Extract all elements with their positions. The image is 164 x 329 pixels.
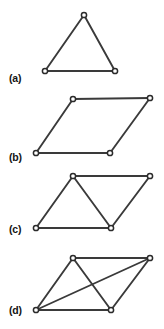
graph-node: [42, 68, 47, 73]
graph-edge: [111, 176, 150, 228]
graph-edge: [36, 99, 73, 153]
panel-label: (d): [9, 304, 22, 316]
graph-node: [33, 150, 38, 155]
edges-group: [36, 176, 150, 228]
graph-edge: [73, 98, 150, 99]
graph-edge: [111, 258, 150, 310]
edges-group: [36, 98, 150, 153]
graph-node: [147, 95, 152, 100]
graph-panel-a: (a): [9, 12, 118, 84]
graph-panel-d: (d): [9, 255, 153, 316]
panel-label: (b): [9, 151, 22, 163]
panels-layer: (a)(b)(c)(d): [9, 12, 153, 316]
graph-figure-canvas: (a)(b)(c)(d): [0, 0, 164, 329]
graph-panel-c: (c): [9, 173, 153, 235]
graph-edge: [73, 176, 111, 228]
edges-group: [45, 15, 115, 71]
graph-node: [70, 255, 75, 260]
graph-node: [147, 173, 152, 178]
graph-node: [33, 307, 38, 312]
graph-node: [81, 12, 86, 17]
figure-container: (a)(b)(c)(d): [0, 0, 164, 329]
graph-edge: [84, 15, 115, 71]
graph-panel-b: (b): [9, 95, 153, 163]
graph-node: [33, 225, 38, 230]
graph-node: [70, 173, 75, 178]
graph-edge: [36, 176, 73, 228]
graph-node: [108, 307, 113, 312]
graph-node: [107, 150, 112, 155]
graph-node: [112, 68, 117, 73]
graph-edge: [45, 15, 84, 71]
graph-node: [70, 96, 75, 101]
graph-node: [147, 255, 152, 260]
graph-edge: [110, 98, 150, 153]
edges-group: [36, 258, 150, 310]
graph-node: [108, 225, 113, 230]
panel-label: (c): [9, 223, 21, 235]
graph-edge: [36, 258, 150, 310]
panel-label: (a): [9, 72, 21, 84]
nodes-group: [33, 95, 152, 155]
